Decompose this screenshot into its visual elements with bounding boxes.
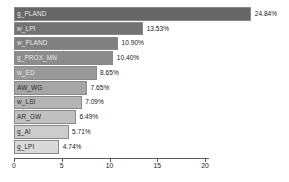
- bar-value-label: 10.40%: [117, 55, 139, 62]
- x-axis-tick-mark: [14, 158, 15, 162]
- bar-row: g_LPI 4.74%: [14, 140, 286, 154]
- bar-w-ed[interactable]: [14, 66, 97, 80]
- bar-value-label: 24.84%: [255, 11, 277, 18]
- x-axis-tick-mark: [110, 158, 111, 162]
- bar-ar-gw[interactable]: [14, 110, 76, 124]
- bar-row: g_PLAND 24.84%: [14, 7, 286, 21]
- bar-row: w_PLAND 10.90%: [14, 37, 286, 51]
- x-axis-tick-mark: [157, 158, 158, 162]
- bar-row: w_LPI 13.53%: [14, 22, 286, 36]
- bar-aw-wg[interactable]: [14, 81, 87, 95]
- plot-area: g_PLAND 24.84% w_LPI 13.53% w_PLAND 10.9…: [14, 7, 286, 157]
- bar-w-pland[interactable]: [14, 37, 118, 51]
- x-axis-tick-label: 0: [12, 163, 16, 170]
- x-axis-tick-mark: [205, 158, 206, 162]
- bar-g-lpi[interactable]: [14, 140, 59, 154]
- bar-value-label: 8.65%: [100, 70, 119, 77]
- x-axis-tick-label: 5: [60, 163, 64, 170]
- bar-value-label: 6.49%: [79, 114, 98, 121]
- bar-row: AW_WG 7.65%: [14, 81, 286, 95]
- bar-w-lpi[interactable]: [14, 22, 143, 36]
- x-axis-tick-label: 15: [153, 163, 161, 170]
- bar-row: g_PROX_MN 10.40%: [14, 51, 286, 65]
- bar-value-label: 13.53%: [147, 25, 169, 32]
- axis-line: [14, 158, 209, 159]
- bar-row: w_LSI 7.09%: [14, 96, 286, 110]
- x-axis: 05101520: [14, 158, 286, 182]
- bar-value-label: 4.74%: [63, 144, 82, 151]
- bar-w-lsi[interactable]: [14, 96, 82, 110]
- bar-row: w_ED 8.65%: [14, 66, 286, 80]
- bar-value-label: 7.65%: [91, 84, 110, 91]
- x-axis-tick-mark: [62, 158, 63, 162]
- bar-g-ai[interactable]: [14, 125, 69, 139]
- bar-row: AR_GW 6.49%: [14, 110, 286, 124]
- bar-value-label: 5.71%: [72, 129, 91, 136]
- bar-row: g_AI 5.71%: [14, 125, 286, 139]
- bar-g-prox-mn[interactable]: [14, 51, 113, 65]
- x-axis-tick-label: 10: [106, 163, 114, 170]
- bar-chart: g_PLAND 24.84% w_LPI 13.53% w_PLAND 10.9…: [0, 0, 289, 182]
- bar-value-label: 10.90%: [122, 40, 144, 47]
- bar-g-pland[interactable]: [14, 7, 251, 21]
- bar-value-label: 7.09%: [85, 99, 104, 106]
- x-axis-tick-label: 20: [201, 163, 209, 170]
